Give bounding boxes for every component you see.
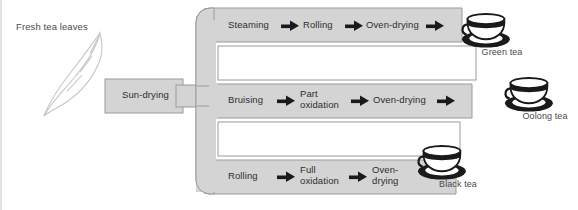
product-label-green-tea: Green tea	[462, 48, 542, 58]
step-black-od-line1: Oven-	[372, 164, 398, 175]
step-oolong-line2: oxidation	[300, 99, 339, 110]
step-oolong-part-oxidation: Partoxidation	[300, 89, 339, 110]
step-green-rolling: Rolling	[303, 20, 333, 30]
step-black-line1: Full	[300, 164, 316, 175]
step-green-steaming: Steaming	[228, 20, 269, 30]
tea-leaf-icon	[44, 33, 102, 116]
step-black-oven-drying: Oven-drying	[372, 165, 398, 186]
step-oolong-line1: Part	[300, 88, 318, 99]
teacup-icon-oolong	[505, 78, 553, 112]
step-green-oven-drying: Oven-drying	[366, 20, 419, 30]
fresh-tea-leaves-label: Fresh tea leaves	[16, 22, 88, 32]
diagram-canvas: Fresh tea leaves Sun-drying Steaming Rol…	[0, 0, 578, 210]
step-black-line2: oxidation	[300, 175, 339, 186]
teacup-icon-green	[462, 14, 510, 48]
product-label-oolong-tea: Oolong tea	[505, 112, 578, 122]
step-black-od-line2: drying	[372, 175, 398, 186]
teacup-icon-black	[418, 146, 466, 180]
step-oolong-bruising: Bruising	[228, 95, 263, 105]
product-label-black-tea: Black tea	[418, 180, 498, 190]
step-black-rolling: Rolling	[228, 171, 258, 181]
step-black-full-oxidation: Fulloxidation	[300, 165, 339, 186]
step-oolong-oven-drying: Oven-drying	[373, 95, 426, 105]
step-sun-drying: Sun-drying	[122, 90, 169, 100]
